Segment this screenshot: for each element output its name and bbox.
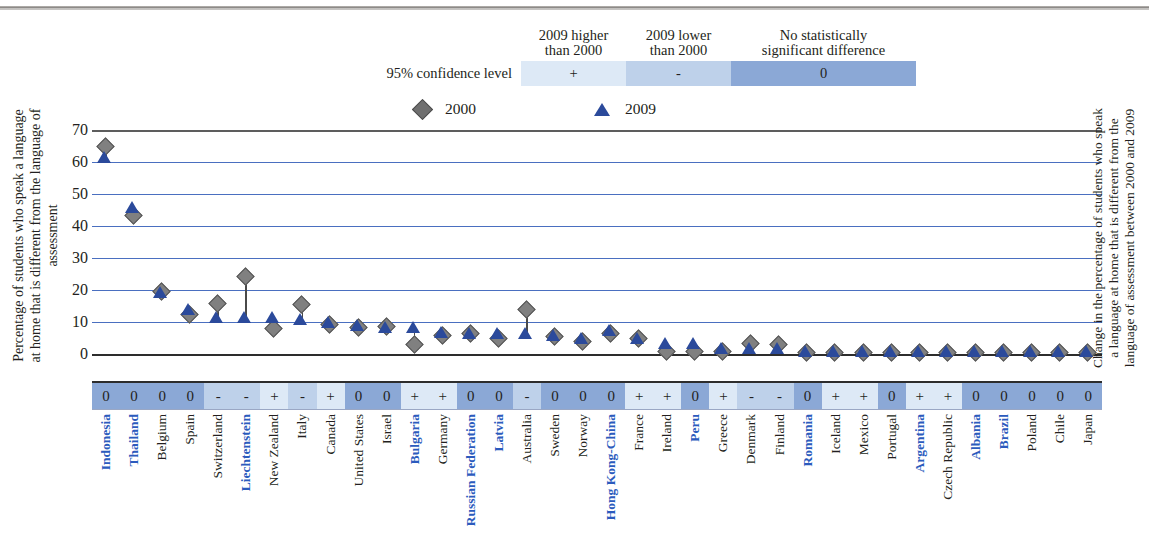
data-point-group: [317, 118, 343, 366]
marker-2009: [209, 311, 223, 323]
marker-2009: [602, 324, 616, 336]
country-label: Argentina: [913, 414, 927, 473]
data-point-group: [766, 118, 792, 366]
y-axis-title: Percentage of students who speak a langu…: [10, 106, 61, 366]
significance-cell: 0: [1074, 383, 1102, 409]
legend-item-2009: 2009: [594, 100, 656, 118]
y-tick-70: 70: [58, 122, 88, 138]
significance-cell: 0: [1018, 383, 1046, 409]
marker-2009: [883, 345, 897, 357]
marker-2009: [742, 342, 756, 354]
significance-cell: +: [429, 383, 457, 409]
y-tick-30: 30: [58, 250, 88, 266]
country-label-slot: Albania: [962, 414, 990, 534]
data-point-group: [542, 118, 568, 366]
country-label: Thailand: [127, 414, 141, 467]
significance-cell: 0: [457, 383, 485, 409]
significance-cell: 0: [148, 383, 176, 409]
data-point-group: [963, 118, 989, 366]
significance-cell: -: [232, 383, 260, 409]
country-label: Portugal: [885, 414, 899, 460]
data-point-group: [93, 118, 119, 366]
country-label-slot: Sweden: [541, 414, 569, 534]
data-point-group: [233, 118, 259, 366]
significance-cell: 0: [373, 383, 401, 409]
right-axis-title: Change in the percentage of students who…: [1090, 107, 1138, 369]
significance-cell: +: [317, 383, 345, 409]
series-legend: 2000 2009: [415, 100, 656, 118]
country-label-slot: Germany: [429, 414, 457, 534]
marker-2009: [406, 321, 420, 333]
marker-2009: [293, 313, 307, 325]
y-tick-0: 0: [58, 346, 88, 362]
significance-band: 0000--+-+00++00-000++0+--0++0++00000: [92, 383, 1102, 409]
significance-cell: 0: [1046, 383, 1074, 409]
marker-2009: [574, 332, 588, 344]
data-point-group: [682, 118, 708, 366]
country-label: Belgium: [155, 414, 169, 461]
significance-cell: +: [934, 383, 962, 409]
marker-2009: [181, 303, 195, 315]
country-label-slot: Indonesia: [92, 414, 120, 534]
scan-artifact-rule-secondary: [0, 9, 1149, 10]
marker-2009: [518, 327, 532, 339]
country-label: Finland: [773, 414, 787, 455]
country-label: Greece: [717, 414, 731, 452]
key-header-nodiff-line1: No statistically: [780, 27, 867, 43]
marker-2009: [237, 311, 251, 323]
country-label: Hong Kong-China: [604, 414, 618, 520]
marker-2009: [1023, 345, 1037, 357]
confidence-key-headers: 2009 higher than 2000 2009 lower than 20…: [340, 16, 940, 58]
marker-2009: [714, 342, 728, 354]
y-tick-60: 60: [58, 154, 88, 170]
data-point-group: [121, 118, 147, 366]
country-label: Spain: [183, 414, 197, 445]
marker-2009: [321, 316, 335, 328]
country-label: Latvia: [492, 414, 506, 452]
significance-cell: +: [709, 383, 737, 409]
significance-cell: +: [906, 383, 934, 409]
data-point-group: [514, 118, 540, 366]
marker-2009: [265, 311, 279, 323]
triangle-marker-icon: [594, 103, 610, 116]
y-tick-20: 20: [58, 282, 88, 298]
country-label: France: [632, 414, 646, 451]
country-axis-labels: IndonesiaThailandBelgiumSpainSwitzerland…: [92, 414, 1102, 534]
significance-cell: 0: [878, 383, 906, 409]
significance-cell: +: [625, 383, 653, 409]
country-label-slot: Ireland: [653, 414, 681, 534]
data-point-group: [710, 118, 736, 366]
y-tick-40: 40: [58, 218, 88, 234]
marker-2009: [911, 345, 925, 357]
marker-2009: [1051, 345, 1065, 357]
country-label: New Zealand: [268, 414, 282, 486]
significance-band-bottom-rule: [92, 409, 1102, 410]
data-point-group: [261, 118, 287, 366]
confidence-key-row: 95% confidence level + - 0: [340, 61, 940, 86]
country-label: Australia: [520, 414, 534, 464]
significance-cell: 0: [962, 383, 990, 409]
country-label: Canada: [324, 414, 338, 454]
significance-cell: 0: [92, 383, 120, 409]
country-label: Italy: [296, 414, 310, 439]
significance-cell: 0: [485, 383, 513, 409]
country-label: Germany: [436, 414, 450, 464]
marker-2009: [658, 337, 672, 349]
country-label: Bulgaria: [408, 414, 422, 464]
country-label-slot: Iceland: [822, 414, 850, 534]
y-axis-ticks: 706050403020100: [58, 118, 92, 366]
legend-label-2000: 2000: [445, 100, 476, 118]
country-label: Russian Federation: [464, 414, 478, 526]
country-label: Romania: [801, 414, 815, 467]
significance-cell: 0: [681, 383, 709, 409]
country-label-slot: Portugal: [878, 414, 906, 534]
diamond-marker-icon: [412, 98, 433, 119]
data-point-group: [458, 118, 484, 366]
data-point-group: [205, 118, 231, 366]
country-label-slot: Switzerland: [204, 414, 232, 534]
data-point-group: [598, 118, 624, 366]
marker-2009: [967, 345, 981, 357]
significance-cell: 0: [569, 383, 597, 409]
legend-label-2009: 2009: [625, 100, 656, 118]
marker-2009: [97, 151, 111, 163]
